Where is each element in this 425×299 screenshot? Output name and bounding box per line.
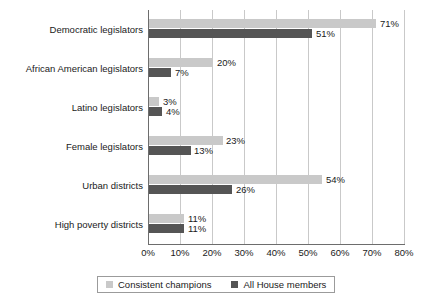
bar-all-house-members bbox=[149, 107, 162, 116]
bar-value-label: 11% bbox=[188, 214, 206, 223]
bar-value-label: 11% bbox=[188, 224, 206, 233]
plot-area: 71% 51% 20% 7% 3% 4% 23% 13% 54% bbox=[148, 10, 404, 244]
bar-value-label: 3% bbox=[163, 97, 177, 106]
x-tick-label: 40% bbox=[266, 247, 285, 259]
legend-label: Consistent champions bbox=[118, 279, 211, 290]
bar-value-label: 20% bbox=[217, 58, 236, 67]
bar-consistent-champions bbox=[149, 214, 184, 223]
bar-value-label: 54% bbox=[326, 175, 345, 184]
x-tick-label: 10% bbox=[170, 247, 189, 259]
bar-value-label: 23% bbox=[226, 136, 245, 145]
bar-value-label: 7% bbox=[175, 68, 189, 77]
legend-swatch-icon bbox=[106, 281, 113, 288]
category-label: High poverty districts bbox=[0, 219, 143, 230]
chart-legend: Consistent champions All House members bbox=[97, 276, 335, 293]
gridline-30 bbox=[244, 10, 245, 244]
bar-chart: Democratic legislators African American … bbox=[0, 0, 425, 299]
bar-consistent-champions bbox=[149, 19, 376, 28]
bar-all-house-members bbox=[149, 146, 191, 155]
bar-consistent-champions bbox=[149, 58, 213, 67]
category-label: Urban districts bbox=[0, 180, 143, 191]
bar-consistent-champions bbox=[149, 175, 322, 184]
x-axis-line bbox=[148, 244, 405, 245]
category-label: Female legislators bbox=[0, 141, 143, 152]
gridline-40 bbox=[276, 10, 277, 244]
bar-all-house-members bbox=[149, 29, 312, 38]
gridline-60 bbox=[340, 10, 341, 244]
bar-value-label: 26% bbox=[236, 185, 255, 194]
legend-item-all-house-members: All House members bbox=[231, 279, 326, 290]
bar-value-label: 51% bbox=[316, 29, 335, 38]
gridline-50 bbox=[308, 10, 309, 244]
bar-value-label: 4% bbox=[166, 107, 180, 116]
bar-value-label: 71% bbox=[380, 19, 399, 28]
category-axis-labels: Democratic legislators African American … bbox=[0, 10, 143, 244]
gridline-20 bbox=[212, 10, 213, 244]
bar-consistent-champions bbox=[149, 136, 223, 145]
bar-value-label: 13% bbox=[194, 146, 213, 155]
bar-all-house-members bbox=[149, 68, 171, 77]
x-tick-label: 70% bbox=[362, 247, 381, 259]
bar-consistent-champions bbox=[149, 97, 159, 106]
category-label: African American legislators bbox=[0, 63, 143, 74]
gridline-10 bbox=[180, 10, 181, 244]
x-axis-tick-labels: 0% 10% 20% 30% 40% 50% 60% 70% 80% bbox=[148, 247, 405, 261]
x-tick-label: 0% bbox=[141, 247, 155, 259]
x-tick-label: 80% bbox=[394, 247, 413, 259]
gridline-70 bbox=[372, 10, 373, 244]
x-tick-label: 30% bbox=[234, 247, 253, 259]
legend-label: All House members bbox=[243, 279, 326, 290]
legend-item-consistent-champions: Consistent champions bbox=[106, 279, 211, 290]
category-label: Democratic legislators bbox=[0, 24, 143, 35]
category-label: Latino legislators bbox=[0, 102, 143, 113]
legend-swatch-icon bbox=[231, 281, 238, 288]
y-axis-line bbox=[148, 10, 149, 244]
bar-all-house-members bbox=[149, 185, 232, 194]
x-tick-label: 60% bbox=[330, 247, 349, 259]
x-tick-label: 20% bbox=[202, 247, 221, 259]
gridline-80 bbox=[404, 10, 405, 244]
x-tick-label: 50% bbox=[298, 247, 317, 259]
bar-all-house-members bbox=[149, 224, 184, 233]
